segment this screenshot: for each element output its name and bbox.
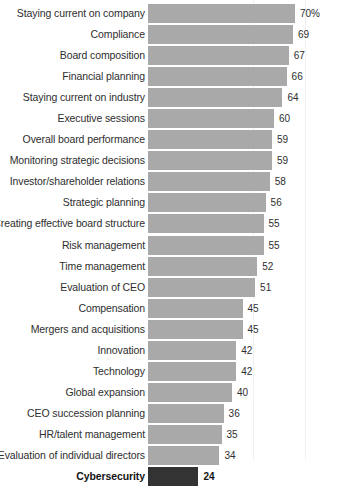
bar-row: Investor/shareholder relations58 bbox=[0, 172, 358, 191]
bar-value-label: 59 bbox=[272, 151, 288, 170]
bar-value-label: 69 bbox=[293, 25, 309, 44]
bar bbox=[148, 446, 219, 465]
bar-value-label: 45 bbox=[243, 299, 259, 318]
bar-value-label: 42 bbox=[236, 341, 252, 360]
bar bbox=[148, 404, 224, 423]
bar-category-label: HR/talent management bbox=[39, 425, 145, 444]
bar-category-label: Time management bbox=[59, 257, 145, 276]
bar-row: CEO succession planning36 bbox=[0, 404, 358, 423]
bar-row: Mergers and acquisitions45 bbox=[0, 320, 358, 339]
bar-value-label: 35 bbox=[222, 425, 238, 444]
bar-row: Evaluation of individual directors34 bbox=[0, 446, 358, 465]
bar-row: Overall board performance59 bbox=[0, 130, 358, 149]
bar-track: 55 bbox=[148, 214, 358, 233]
bar bbox=[148, 341, 236, 360]
bar-track: 56 bbox=[148, 193, 358, 212]
bar bbox=[148, 67, 287, 86]
bar-value-label: 60 bbox=[274, 109, 290, 128]
bar-value-label: 67 bbox=[289, 46, 305, 65]
bar bbox=[148, 214, 264, 233]
bar-track: 45 bbox=[148, 320, 358, 339]
bar bbox=[148, 151, 272, 170]
bar-track: 40 bbox=[148, 383, 358, 402]
bar-category-label: Innovation bbox=[98, 341, 145, 360]
bar bbox=[148, 299, 243, 318]
bar-value-label: 56 bbox=[266, 193, 282, 212]
bar-value-label: 55 bbox=[264, 236, 280, 255]
bar-track: 52 bbox=[148, 257, 358, 276]
bar bbox=[148, 25, 293, 44]
bar-value-label: 55 bbox=[264, 214, 280, 233]
bar-category-label: Technology bbox=[93, 362, 145, 381]
bar-row: Staying current on industry64 bbox=[0, 88, 358, 107]
bar bbox=[148, 193, 266, 212]
bar-category-label: Evaluation of CEO bbox=[60, 278, 145, 297]
bar-row: Staying current on company70% bbox=[0, 4, 358, 23]
bar-row: Cybersecurity24 bbox=[0, 467, 358, 486]
bar-value-label: 45 bbox=[243, 320, 259, 339]
bar-track: 36 bbox=[148, 404, 358, 423]
bar-row: Compensation45 bbox=[0, 299, 358, 318]
bar-category-label: Evaluation of individual directors bbox=[0, 446, 145, 465]
bar-value-label: 36 bbox=[224, 404, 240, 423]
chart-title bbox=[150, 0, 350, 2]
bar-value-label: 70% bbox=[295, 4, 320, 23]
bar-track: 55 bbox=[148, 236, 358, 255]
bar bbox=[148, 130, 272, 149]
bar-row: Creating effective board structure55 bbox=[0, 214, 358, 233]
bar-row: Innovation42 bbox=[0, 341, 358, 360]
bar bbox=[148, 425, 222, 444]
bar-track: 45 bbox=[148, 299, 358, 318]
bar-row: Time management52 bbox=[0, 257, 358, 276]
bar bbox=[148, 320, 243, 339]
bar-value-label: 51 bbox=[255, 278, 271, 297]
bar-row: Strategic planning56 bbox=[0, 193, 358, 212]
bar-row: Financial planning66 bbox=[0, 67, 358, 86]
bar bbox=[148, 109, 274, 128]
bar-track: 60 bbox=[148, 109, 358, 128]
bar-value-label: 24 bbox=[198, 467, 214, 486]
bar bbox=[148, 278, 255, 297]
bar-category-label: CEO succession planning bbox=[27, 404, 145, 423]
bar bbox=[148, 467, 198, 486]
bar-value-label: 59 bbox=[272, 130, 288, 149]
bar-track: 51 bbox=[148, 278, 358, 297]
bar-track: 59 bbox=[148, 130, 358, 149]
bar-track: 66 bbox=[148, 67, 358, 86]
bar-category-label: Mergers and acquisitions bbox=[31, 320, 145, 339]
bar bbox=[148, 46, 289, 65]
bar-category-label: Financial planning bbox=[62, 67, 145, 86]
bar bbox=[148, 236, 264, 255]
bar bbox=[148, 362, 236, 381]
bar-value-label: 40 bbox=[232, 383, 248, 402]
bar-category-label: Staying current on company bbox=[17, 4, 145, 23]
bar-row: Technology42 bbox=[0, 362, 358, 381]
bar-row: HR/talent management35 bbox=[0, 425, 358, 444]
bar-row: Compliance69 bbox=[0, 25, 358, 44]
bar-row: Evaluation of CEO51 bbox=[0, 278, 358, 297]
bar-track: 42 bbox=[148, 341, 358, 360]
bar-value-label: 34 bbox=[219, 446, 235, 465]
bar-value-label: 42 bbox=[236, 362, 252, 381]
bar-row: Monitoring strategic decisions59 bbox=[0, 151, 358, 170]
bar bbox=[148, 383, 232, 402]
bar-category-label: Compliance bbox=[91, 25, 145, 44]
bar-row: Global expansion40 bbox=[0, 383, 358, 402]
bar-category-label: Compensation bbox=[78, 299, 145, 318]
bar bbox=[148, 257, 257, 276]
bar-value-label: 52 bbox=[257, 257, 273, 276]
bar-value-label: 58 bbox=[270, 172, 286, 191]
bar-track: 70% bbox=[148, 4, 358, 23]
bar-value-label: 64 bbox=[282, 88, 298, 107]
bar bbox=[148, 88, 282, 107]
bar-track: 24 bbox=[148, 467, 358, 486]
bar-row: Executive sessions60 bbox=[0, 109, 358, 128]
bar-track: 59 bbox=[148, 151, 358, 170]
bar-category-label: Creating effective board structure bbox=[0, 214, 145, 233]
bar-row: Risk management55 bbox=[0, 236, 358, 255]
bar-track: 58 bbox=[148, 172, 358, 191]
bar-track: 35 bbox=[148, 425, 358, 444]
bar-track: 67 bbox=[148, 46, 358, 65]
bar-category-label: Cybersecurity bbox=[76, 467, 145, 486]
